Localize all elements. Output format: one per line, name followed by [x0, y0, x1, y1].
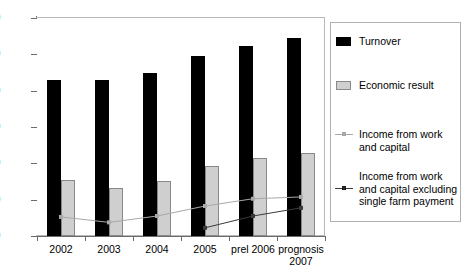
- line-path: [61, 197, 301, 222]
- line-marker: [59, 215, 63, 219]
- legend-item-economic-result[interactable]: Economic result: [335, 79, 459, 92]
- line-marker: [155, 214, 159, 218]
- line-marker: [251, 197, 255, 201]
- legend-label: Income from work and capital: [359, 128, 459, 153]
- legend-label: Income from work and capital excluding s…: [359, 170, 459, 208]
- line-marker: [203, 204, 207, 208]
- line-marker: [107, 220, 111, 224]
- line-marker: [299, 206, 303, 210]
- chart-root: 020040060080010001200 2002200320042005pr…: [0, 0, 463, 267]
- line-dark-marker-icon: [335, 183, 355, 195]
- legend-label: Turnover: [359, 35, 401, 48]
- line-marker: [203, 226, 207, 230]
- swatch-black-icon: [335, 36, 355, 48]
- legend-item-turnover[interactable]: Turnover: [335, 35, 459, 48]
- line-light-marker-icon: [335, 129, 355, 141]
- swatch-gray-icon: [335, 80, 355, 92]
- line-marker: [299, 195, 303, 199]
- legend-item-income-excl-single-farm-payment[interactable]: Income from work and capital excluding s…: [335, 170, 459, 208]
- legend-label: Economic result: [359, 79, 434, 92]
- chart-legend: Turnover Economic result Income from wor…: [330, 22, 461, 222]
- legend-item-income-work-capital[interactable]: Income from work and capital: [335, 128, 459, 153]
- line-marker: [251, 214, 255, 218]
